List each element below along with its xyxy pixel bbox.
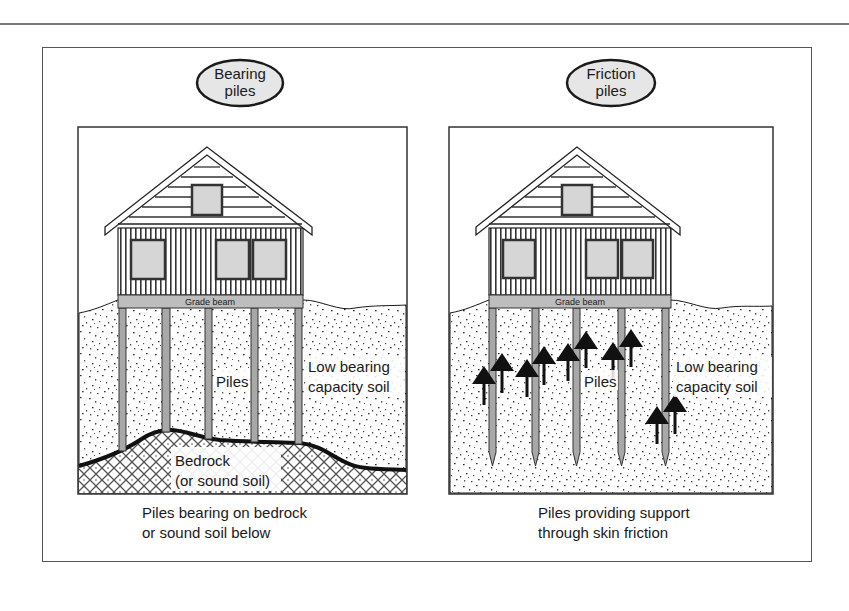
attic-window bbox=[562, 185, 592, 215]
soil-label-line1: Low bearing bbox=[676, 358, 758, 375]
friction-piles-badge: Friction piles bbox=[567, 60, 655, 106]
pile-2 bbox=[162, 308, 170, 432]
pile-5 bbox=[662, 308, 669, 466]
bearing-piles-badge: Bearing piles bbox=[197, 60, 283, 106]
window-1 bbox=[131, 240, 165, 279]
bearing-caption: Piles bearing on bedrock or sound soil b… bbox=[142, 503, 307, 543]
window-3 bbox=[253, 240, 286, 279]
badge-title-line1: Friction bbox=[586, 65, 635, 82]
pile-3 bbox=[573, 308, 580, 466]
piles-label: Piles bbox=[216, 373, 249, 390]
pile-4 bbox=[618, 308, 625, 466]
pile-4 bbox=[251, 308, 258, 442]
window-2 bbox=[216, 240, 249, 279]
caption-line2: through skin friction bbox=[538, 523, 690, 543]
pile-1 bbox=[119, 308, 126, 451]
caption-line1: Piles bearing on bedrock bbox=[142, 503, 307, 523]
grade-beam-label: Grade beam bbox=[185, 297, 235, 307]
soil-label-line2: capacity soil bbox=[308, 378, 390, 395]
pile-5 bbox=[295, 308, 302, 444]
badge-title-line2: piles bbox=[225, 82, 256, 99]
window-2 bbox=[586, 240, 618, 278]
caption-line2: or sound soil below bbox=[142, 523, 307, 543]
friction-piles-panel: Friction piles bbox=[449, 60, 773, 494]
attic-window bbox=[192, 185, 222, 215]
pile-3 bbox=[205, 308, 212, 439]
grade-beam-label: Grade beam bbox=[555, 297, 605, 307]
badge-title-line2: piles bbox=[596, 82, 627, 99]
friction-caption: Piles providing support through skin fri… bbox=[538, 503, 690, 543]
pile-2 bbox=[532, 308, 539, 466]
bedrock-label-line1: Bedrock bbox=[175, 452, 231, 469]
pile-1 bbox=[489, 308, 496, 466]
window-3 bbox=[622, 240, 653, 278]
bedrock-label-line2: (or sound soil) bbox=[175, 472, 270, 489]
badge-title-line1: Bearing bbox=[214, 65, 266, 82]
caption-line1: Piles providing support bbox=[538, 503, 690, 523]
bearing-piles-panel: Bearing piles bbox=[78, 60, 407, 494]
soil-label-line2: capacity soil bbox=[676, 378, 758, 395]
soil-label-line1: Low bearing bbox=[308, 358, 390, 375]
window-1 bbox=[503, 240, 535, 278]
pile-foundation-diagram: Bearing piles bbox=[0, 0, 849, 611]
piles-label: Piles bbox=[584, 373, 617, 390]
